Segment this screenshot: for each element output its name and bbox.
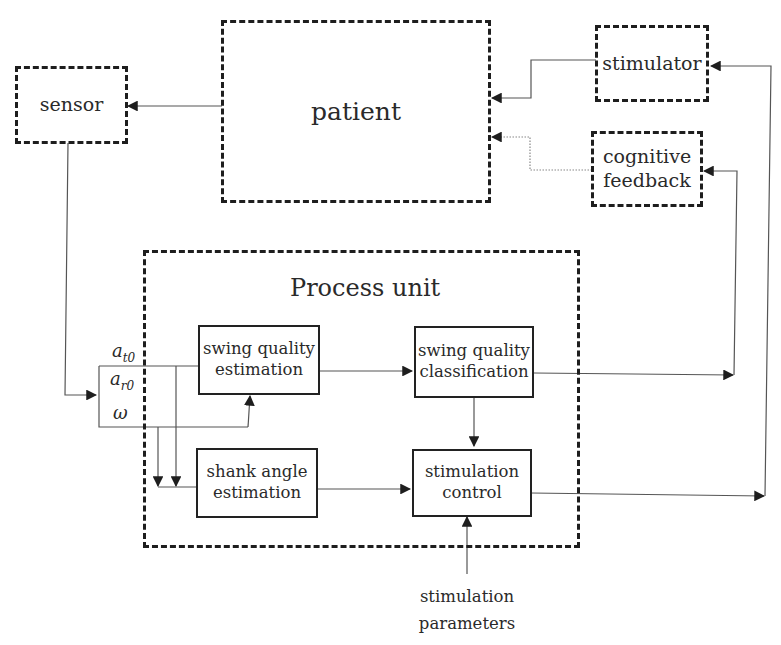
patient-label: patient [311,96,401,127]
swing-quality-estimation-label-2: estimation [215,360,303,381]
swing-quality-classification-label-2: classification [419,362,528,383]
patient-block: patient [221,20,491,203]
swing-quality-classification-block: swing quality classification [414,326,534,398]
signal-a-t0: at0 [112,340,135,365]
cognitive-feedback-block: cognitive feedback [591,131,703,207]
arrow-sensor-to-bus [65,143,96,395]
signal-a-r0: ar0 [110,368,134,393]
stimulation-control-label-2: control [442,483,502,504]
arrow-stimulator-to-patient [492,60,596,98]
stimulation-control-label-1: stimulation [425,462,519,483]
shank-angle-estimation-block: shank angle estimation [196,448,318,518]
cognitive-feedback-label-2: feedback [603,169,690,193]
shank-angle-estimation-label-1: shank angle [207,462,308,483]
stimulation-parameters-line-1: stimulation [412,583,522,610]
sensor-block: sensor [15,66,128,144]
arrow-feedback-to-patient [492,137,592,170]
sensor-label: sensor [40,93,104,117]
signal-omega: ω [113,402,128,423]
stimulation-parameters-label: stimulation parameters [412,583,522,637]
stimulation-control-block: stimulation control [412,449,532,517]
stimulator-block: stimulator [595,25,709,102]
cognitive-feedback-label-1: cognitive [603,145,691,169]
swing-quality-classification-label-1: swing quality [418,341,530,362]
stimulation-parameters-line-2: parameters [412,610,522,637]
stimulator-label: stimulator [602,52,701,76]
shank-angle-estimation-label-2: estimation [213,483,301,504]
process-unit-title: Process unit [290,274,440,302]
swing-quality-estimation-label-1: swing quality [203,339,315,360]
swing-quality-estimation-block: swing quality estimation [198,325,320,395]
